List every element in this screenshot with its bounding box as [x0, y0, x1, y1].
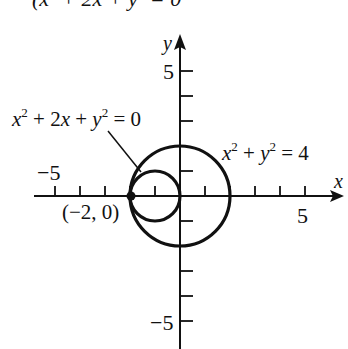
x-axis-label: x [333, 170, 343, 192]
y-axis-label: y [161, 32, 172, 55]
point-label: (−2, 0) [62, 200, 119, 224]
y-tick-label-neg5: −5 [150, 310, 173, 335]
large-circle-equation-label: x2 + y2 = 4 [221, 139, 309, 165]
header-cutoff-text: (x2 + 2x + y2 = 0 [32, 0, 181, 11]
graph-canvas: (x2 + 2x + y2 = 0 [0, 0, 348, 349]
y-axis [174, 34, 193, 349]
y-tick-label-5: 5 [163, 59, 174, 84]
small-circle-equation-label: x2 + 2x + y2 = 0 [11, 105, 141, 131]
x-tick-label-5: 5 [297, 203, 308, 228]
small-circle-leader-line [108, 131, 141, 172]
x-tick-label-neg5: −5 [37, 160, 60, 185]
point-neg2-0 [127, 192, 136, 201]
